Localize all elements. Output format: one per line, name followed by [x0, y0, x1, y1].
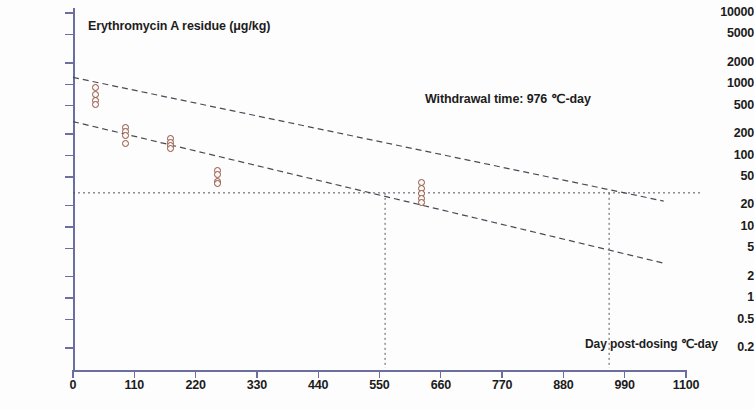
- data-point-marker: [214, 171, 221, 178]
- regression-fit: [73, 122, 664, 264]
- data-point-marker: [418, 199, 425, 206]
- data-point-marker: [92, 101, 99, 108]
- regression-lines: [73, 77, 664, 263]
- data-point-marker: [122, 140, 129, 147]
- chart-lines-layer: [0, 0, 754, 409]
- chart-figure: 100005000200010005002001005020105210.50.…: [0, 0, 754, 409]
- data-point-marker: [92, 84, 99, 91]
- reference-lines: [73, 193, 700, 368]
- upper-tolerance-limit: [73, 77, 664, 201]
